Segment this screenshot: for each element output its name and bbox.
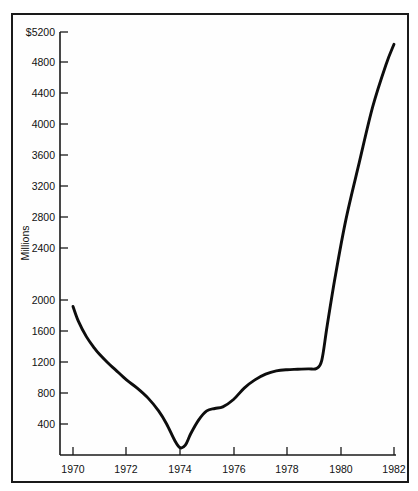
- y-tick-label-2800: 2800: [32, 211, 56, 223]
- y-tick-label-800: 800: [37, 387, 55, 399]
- y-tick-label-5200: $5200: [26, 26, 55, 38]
- x-tick-label-1976: 1976: [222, 463, 246, 475]
- y-axis-title: Millions: [19, 225, 31, 260]
- y-tick-label-2400: 2400: [32, 242, 56, 254]
- x-axis-tick-labels: 1970 1972 1974 1976 1978 1980 1982: [61, 463, 406, 475]
- y-tick-label-4000: 4000: [32, 118, 56, 130]
- data-line-series-0: [73, 44, 394, 448]
- y-tick-label-4400: 4400: [32, 87, 56, 99]
- y-tick-label-1200: 1200: [32, 356, 56, 368]
- y-tick-label-3600: 3600: [32, 149, 56, 161]
- x-tick-label-1974: 1974: [168, 463, 192, 475]
- x-tick-label-1982: 1982: [382, 463, 406, 475]
- x-tick-label-1970: 1970: [61, 463, 85, 475]
- y-tick-label-2000: 2000: [32, 294, 56, 306]
- x-axis-ticks: [73, 447, 394, 455]
- y-tick-label-3200: 3200: [32, 180, 56, 192]
- line-chart-plot: $5200 4800 4400 4000 3600 3200 2800 2400…: [0, 0, 418, 491]
- y-tick-label-1600: 1600: [32, 325, 56, 337]
- y-axis-ticks: [60, 32, 68, 424]
- chart-figure: $5200 4800 4400 4000 3600 3200 2800 2400…: [0, 0, 418, 491]
- x-tick-label-1980: 1980: [329, 463, 353, 475]
- x-tick-label-1978: 1978: [275, 463, 299, 475]
- x-tick-label-1972: 1972: [114, 463, 138, 475]
- y-tick-label-4800: 4800: [32, 56, 56, 68]
- y-tick-label-400: 400: [37, 418, 55, 430]
